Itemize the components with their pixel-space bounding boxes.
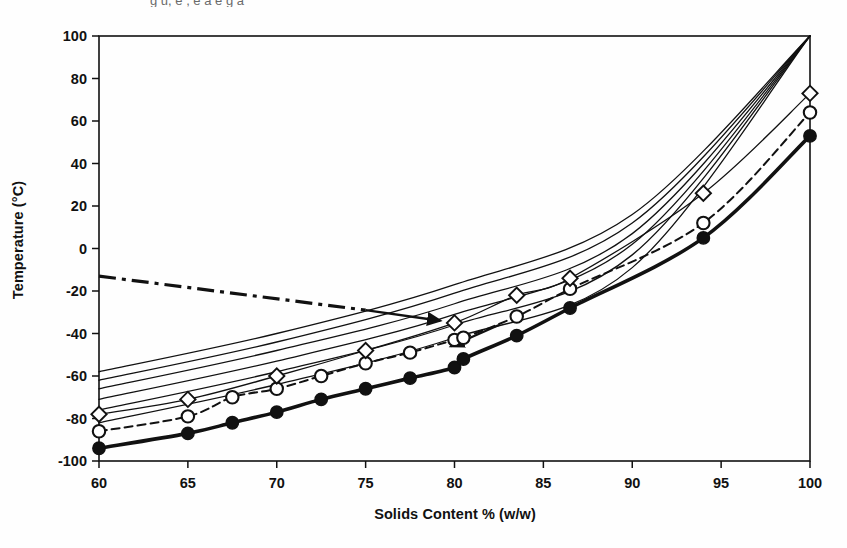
data-point-marker <box>697 217 709 229</box>
data-point-marker <box>226 417 238 429</box>
data-point-marker <box>564 302 576 314</box>
data-point-marker <box>804 106 816 118</box>
x-tick-label: 90 <box>624 475 640 491</box>
x-tick-label: 70 <box>269 475 285 491</box>
data-point-marker <box>804 130 816 142</box>
data-markers <box>91 86 817 455</box>
plot-canvas: 6065707580859095100100806040200-20-40-60… <box>0 0 847 548</box>
data-point-marker <box>457 332 469 344</box>
chart-figure: g u, e , e a e g a Temperature (°C) Soli… <box>0 0 847 548</box>
data-point-marker <box>315 393 327 405</box>
y-tick-label: 100 <box>63 28 87 44</box>
data-point-marker <box>697 232 709 244</box>
data-point-marker <box>509 288 524 303</box>
y-tick-label: 60 <box>71 113 87 129</box>
axis-ticks <box>92 36 810 468</box>
series-line <box>99 113 810 432</box>
x-tick-label: 60 <box>91 475 107 491</box>
data-point-marker <box>182 427 194 439</box>
y-tick-label: 40 <box>71 156 87 172</box>
data-point-marker <box>182 410 194 422</box>
data-point-marker <box>358 343 373 358</box>
data-point-marker <box>404 346 416 358</box>
data-point-marker <box>315 370 327 382</box>
series-line <box>99 136 810 448</box>
y-tick-label: 0 <box>79 241 87 257</box>
data-point-marker <box>359 383 371 395</box>
dash-dot-leader-line <box>99 276 366 310</box>
data-point-marker <box>93 442 105 454</box>
data-point-marker <box>511 310 523 322</box>
data-point-marker <box>226 391 238 403</box>
x-tick-label: 80 <box>446 475 462 491</box>
x-tick-label: 85 <box>535 475 551 491</box>
y-tick-label: 80 <box>71 71 87 87</box>
data-point-marker <box>457 353 469 365</box>
tick-labels: 6065707580859095100100806040200-20-40-60… <box>58 28 822 491</box>
data-point-marker <box>562 271 577 286</box>
x-tick-label: 65 <box>180 475 196 491</box>
data-point-marker <box>696 186 711 201</box>
data-point-marker <box>511 329 523 341</box>
plot-frame <box>99 36 810 461</box>
y-tick-label: -60 <box>66 368 87 384</box>
chart-annotations <box>99 276 499 346</box>
y-tick-label: -40 <box>66 326 87 342</box>
x-tick-label: 75 <box>358 475 374 491</box>
y-tick-label: -80 <box>66 411 87 427</box>
x-tick-label: 100 <box>798 475 822 491</box>
y-tick-label: -100 <box>58 453 87 469</box>
data-point-marker <box>93 425 105 437</box>
data-point-marker <box>404 372 416 384</box>
data-point-marker <box>447 315 462 330</box>
y-tick-label: 20 <box>71 198 87 214</box>
data-point-marker <box>271 406 283 418</box>
x-tick-label: 95 <box>713 475 729 491</box>
y-tick-label: -20 <box>66 283 87 299</box>
